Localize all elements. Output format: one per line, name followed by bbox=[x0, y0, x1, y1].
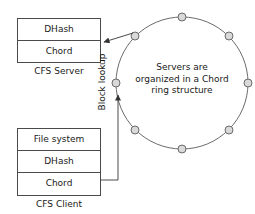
ring-node-left bbox=[112, 79, 120, 87]
cfs-client-caption: CFS Client bbox=[17, 199, 101, 209]
ring-node-top bbox=[178, 13, 186, 21]
ring-annotation-line-2: organized in a Chord bbox=[128, 74, 236, 86]
client-layer-file-system: File system bbox=[18, 129, 100, 151]
ring-annotation-line-1: Servers are bbox=[128, 62, 236, 74]
ring-annotation-line-3: ring structure bbox=[128, 85, 236, 97]
cfs-server-caption: CFS Server bbox=[17, 66, 101, 76]
ring-node-right bbox=[244, 79, 252, 87]
server-layer-dhash: DHash bbox=[18, 19, 100, 41]
server-connector-line bbox=[104, 33, 133, 42]
client-layer-chord: Chord bbox=[18, 173, 100, 195]
cfs-client-box: File system DHash Chord bbox=[17, 128, 101, 196]
server-layer-chord: Chord bbox=[18, 41, 100, 63]
client-layer-dhash: DHash bbox=[18, 151, 100, 173]
diagram-canvas: DHash Chord CFS Server File system DHash… bbox=[0, 0, 255, 214]
cfs-server-box: DHash Chord bbox=[17, 18, 101, 63]
ring-node-bottom bbox=[178, 145, 186, 153]
ring-node-lower-left bbox=[131, 126, 139, 134]
ring-annotation-text: Servers are organized in a Chord ring st… bbox=[128, 62, 236, 97]
ring-node-lower-right bbox=[225, 126, 233, 134]
block-lookup-label: Block lookup bbox=[96, 47, 108, 117]
ring-node-upper-left bbox=[131, 32, 139, 40]
ring-node-upper-right bbox=[225, 32, 233, 40]
